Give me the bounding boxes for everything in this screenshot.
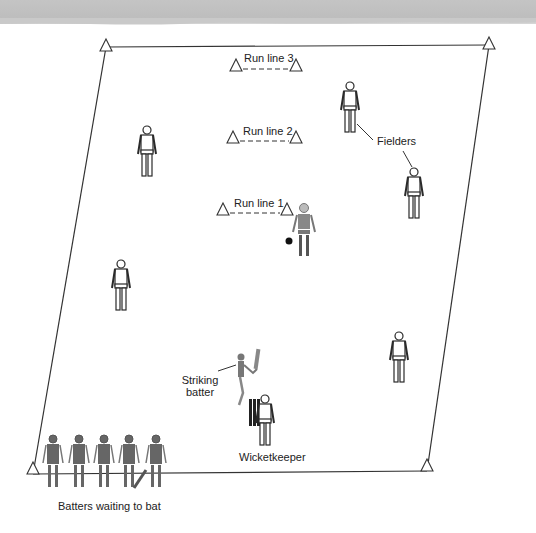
waiting-batter-1 (43, 435, 63, 487)
waiting-batter-2 (69, 435, 89, 487)
fielder-top-right (341, 82, 359, 132)
run-line-1-label: Run line 1 (234, 197, 284, 209)
corner-cone-top-right (483, 37, 495, 49)
fielders-pointer-2 (403, 151, 412, 167)
run-line-2-label: Run line 2 (243, 125, 293, 137)
fielders-pointer-1 (357, 124, 373, 140)
batters-waiting-label: Batters waiting to bat (58, 500, 161, 512)
fielder-left-middle (112, 260, 130, 310)
waiting-batter-4 (119, 435, 139, 487)
fielders-label: Fielders (377, 135, 416, 147)
striking-batter-pointer (218, 365, 236, 371)
cricket-ball (286, 238, 293, 245)
corner-cone-top-left (100, 39, 112, 51)
fielder-left-upper (138, 126, 156, 176)
fielder-right-lower (390, 332, 408, 382)
striking-batter (238, 349, 261, 405)
striking-batter-label-line-1: Striking (180, 374, 220, 386)
waiting-batter-3 (94, 435, 114, 487)
waiting-batter-5 (146, 435, 166, 487)
striking-batter-label: Striking batter (180, 374, 220, 398)
corner-cone-bottom-right (421, 459, 433, 471)
fielder-right (405, 168, 423, 218)
bowler (293, 204, 315, 257)
striking-batter-label-line-2: batter (180, 386, 220, 398)
run-line-3-label: Run line 3 (244, 52, 294, 64)
corner-cone-bottom-left (27, 462, 39, 474)
wicketkeeper-label: Wicketkeeper (239, 451, 306, 463)
